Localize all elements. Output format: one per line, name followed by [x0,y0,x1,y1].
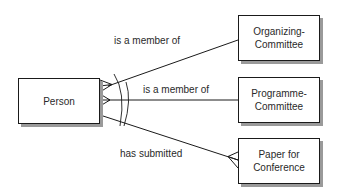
entity-person: Person [18,78,100,124]
relationship-line-programme [100,94,238,106]
entity-organizing-committee: Organizing- Committee [238,15,320,61]
relationship-label-paper: has submitted [120,148,182,159]
entity-label: Person [43,95,75,108]
entity-programme-committee: Programme- Committee [238,77,320,123]
entity-paper-for-conference: Paper for Conference [238,138,320,184]
entity-label: Paper for Conference [253,148,305,174]
relationship-label-programme: is a member of [143,84,209,95]
er-diagram: Person Organizing- Committee Programme- … [0,0,340,196]
entity-label: Programme- Committee [251,87,307,113]
entity-label: Organizing- Committee [253,25,305,51]
relationship-label-organizing: is a member of [114,35,180,46]
